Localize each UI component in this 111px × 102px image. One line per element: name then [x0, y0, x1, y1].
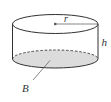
base-label: B: [22, 82, 29, 94]
height-label: h: [102, 36, 108, 48]
cylinder-diagram: r h B: [0, 0, 111, 102]
radius-label: r: [64, 13, 68, 24]
